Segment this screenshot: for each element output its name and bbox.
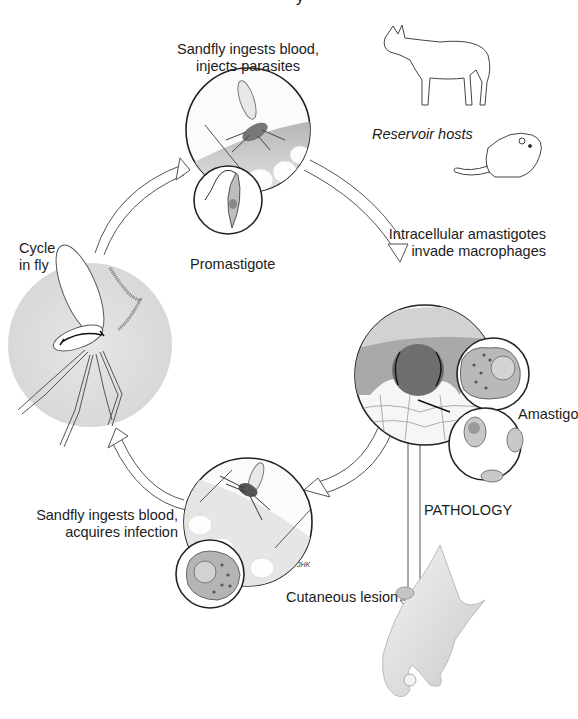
- label-amastigotes-line2: invade macrophages: [380, 243, 546, 260]
- label-pathology: PATHOLOGY: [424, 502, 512, 519]
- label-ingest-inject-line1: Sandfly ingests blood,: [163, 41, 333, 58]
- label-acquire-infection: Sandfly ingests blood, acquires infectio…: [10, 507, 178, 541]
- label-reservoir-hosts: Reservoir hosts: [372, 126, 473, 143]
- arrow-fly-to-top: [95, 158, 190, 255]
- label-promastigote: Promastigote: [190, 256, 275, 273]
- label-cycle-in-fly-line2: in fly: [19, 257, 55, 274]
- label-amastigotes-invade: Intracellular amastigotes invade macroph…: [380, 226, 546, 260]
- amastigote-inset: [449, 408, 523, 482]
- label-cycle-in-fly-line1: Cycle: [19, 240, 55, 257]
- macrophage-inset: [457, 338, 529, 410]
- label-amastigote: Amastigo: [518, 406, 578, 423]
- label-acquire-line1: Sandfly ingests blood,: [10, 507, 178, 524]
- label-cycle-in-fly: Cycle in fly: [19, 240, 55, 274]
- hand-cutaneous-lesion-illustration: [383, 545, 486, 697]
- label-amastigotes-line1: Intracellular amastigotes: [380, 226, 546, 243]
- infected-macrophage-inset: [176, 540, 244, 608]
- title-fragment: y: [296, 0, 304, 5]
- label-acquire-line2: acquires infection: [10, 524, 178, 541]
- promastigote-inset: [194, 166, 262, 234]
- label-ingest-inject-line2: injects parasites: [163, 58, 333, 75]
- arrow-bot-to-fly: [108, 428, 186, 510]
- label-ingest-inject: Sandfly ingests blood, injects parasites: [163, 41, 333, 75]
- label-cutaneous-lesion: Cutaneous lesion: [286, 589, 398, 606]
- artist-signature: JHK: [296, 561, 311, 568]
- dog-reservoir-host-illustration: [384, 25, 490, 105]
- arrow-mid-to-bot: [304, 428, 392, 497]
